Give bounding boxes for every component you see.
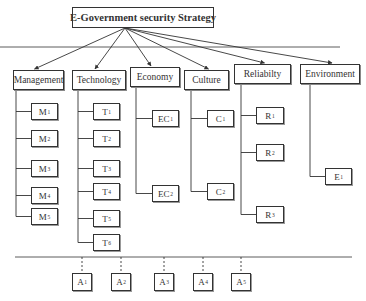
- leaf-label: M: [39, 212, 47, 222]
- actor-label: A: [198, 277, 205, 287]
- root-node: E-Government security Strategy: [72, 7, 214, 28]
- leaf-node-t6: T6: [93, 234, 120, 251]
- actor-node-a3: A3: [154, 273, 174, 291]
- leaf-label: M: [39, 164, 47, 174]
- leaf-node-t2: T2: [93, 130, 120, 147]
- leaf-subscript: 2: [272, 150, 275, 156]
- leaf-subscript: 1: [108, 109, 111, 115]
- leaf-subscript: 1: [222, 116, 225, 122]
- leaf-node-r1: R1: [256, 107, 284, 124]
- leaf-subscript: 4: [108, 189, 111, 195]
- leaf-label: T: [102, 164, 108, 174]
- category-label: Environment: [305, 69, 355, 79]
- leaf-node-r2: R2: [256, 144, 284, 161]
- e-government-strategy-diagram: E-Government security Strategy Managemen…: [0, 0, 366, 301]
- category-management: Management: [13, 70, 64, 90]
- leaf-label: M: [39, 134, 47, 144]
- leaf-node-m5: M5: [31, 208, 58, 225]
- category-label: Reliabilty: [244, 69, 281, 79]
- category-reliability: Reliabilty: [234, 64, 291, 84]
- category-economy: Economy: [130, 67, 180, 87]
- leaf-label: T: [102, 238, 108, 248]
- category-label: Culture: [192, 75, 221, 85]
- leaf-label: C: [216, 114, 222, 124]
- category-culture: Culture: [184, 70, 229, 90]
- leaf-subscript: 2: [170, 191, 173, 197]
- leaf-label: M: [39, 191, 47, 201]
- leaf-node-t5: T5: [93, 210, 120, 227]
- leaf-label: R: [265, 111, 271, 121]
- leaf-subscript: 2: [222, 189, 225, 195]
- leaf-node-t3: T3: [93, 160, 120, 177]
- leaf-subscript: 1: [340, 174, 343, 180]
- leaf-node-t1: T1: [93, 103, 120, 120]
- leaf-node-m3: M3: [31, 160, 58, 177]
- leaf-label: EC: [158, 189, 170, 199]
- leaf-subscript: 4: [47, 193, 50, 199]
- root-label: E-Government security Strategy: [70, 12, 216, 23]
- leaf-label: R: [265, 148, 271, 158]
- leaf-label: R: [265, 210, 271, 220]
- leaf-subscript: 6: [108, 240, 111, 246]
- leaf-subscript: 1: [170, 116, 173, 122]
- leaf-node-m2: M2: [31, 130, 58, 147]
- actor-subscript: 2: [123, 279, 126, 285]
- actor-node-a2: A2: [111, 273, 131, 291]
- actor-label: A: [159, 277, 166, 287]
- leaf-node-ec2: EC2: [152, 185, 179, 202]
- leaf-label: T: [102, 107, 108, 117]
- leaf-label: T: [102, 134, 108, 144]
- leaf-subscript: 1: [47, 109, 50, 115]
- actor-subscript: 1: [84, 279, 87, 285]
- leaf-subscript: 5: [47, 214, 50, 220]
- actor-subscript: 4: [205, 279, 208, 285]
- leaf-subscript: 2: [47, 136, 50, 142]
- leaf-label: C: [216, 187, 222, 197]
- category-environment: Environment: [300, 64, 360, 84]
- actor-label: A: [116, 277, 123, 287]
- actor-subscript: 5: [243, 279, 246, 285]
- category-label: Management: [14, 75, 64, 85]
- actor-node-a1: A1: [72, 273, 92, 291]
- leaf-subscript: 3: [47, 166, 50, 172]
- actor-node-a5: A5: [231, 273, 251, 291]
- leaf-node-ec1: EC1: [152, 110, 179, 127]
- leaf-label: EC: [158, 114, 170, 124]
- leaf-node-m1: M1: [31, 103, 58, 120]
- leaf-subscript: 3: [108, 166, 111, 172]
- leaf-subscript: 3: [272, 212, 275, 218]
- leaf-subscript: 2: [108, 136, 111, 142]
- category-label: Economy: [137, 72, 173, 82]
- leaf-node-r3: R3: [256, 206, 284, 223]
- actor-node-a4: A4: [193, 273, 213, 291]
- connector-lines: [0, 0, 366, 301]
- leaf-label: M: [39, 107, 47, 117]
- actor-label: A: [77, 277, 84, 287]
- leaf-node-e1: E1: [325, 168, 352, 185]
- actor-subscript: 3: [166, 279, 169, 285]
- leaf-label: T: [102, 187, 108, 197]
- leaf-label: E: [334, 172, 340, 182]
- leaf-label: T: [102, 214, 108, 224]
- category-technology: Technology: [72, 70, 126, 90]
- actor-label: A: [236, 277, 243, 287]
- leaf-node-c2: C2: [207, 183, 234, 200]
- category-label: Technology: [77, 75, 122, 85]
- leaf-subscript: 1: [272, 113, 275, 119]
- leaf-node-c1: C1: [207, 110, 234, 127]
- leaf-subscript: 5: [108, 216, 111, 222]
- leaf-node-t4: T4: [93, 183, 120, 200]
- leaf-node-m4: M4: [31, 187, 58, 204]
